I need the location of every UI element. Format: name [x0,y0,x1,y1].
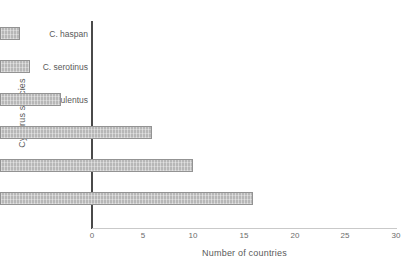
x-tick-label: 25 [330,231,360,240]
bar-row [0,126,152,139]
x-axis-baseline [92,228,397,229]
bar-iria [0,126,152,139]
x-tick-label: 5 [128,231,158,240]
bar-row [0,159,193,172]
x-tick-label: 10 [178,231,208,240]
bar-row [0,93,61,106]
bar-haspan [0,27,20,40]
bar-serotinus [0,60,30,73]
bar-chart-figure: Cyperus species C. haspan C. serotinus C… [0,0,414,268]
bar-difformis [0,192,253,205]
bar-esculentus [0,93,61,106]
x-tick-label: 0 [77,231,107,240]
bar-row [0,27,20,40]
bar-rotundus [0,159,193,172]
bar-row [0,60,30,73]
x-tick-label: 15 [229,231,259,240]
x-tick-label: 30 [381,231,411,240]
bar-row [0,192,253,205]
x-tick-label: 20 [280,231,310,240]
x-axis-title: Number of countries [92,248,397,258]
